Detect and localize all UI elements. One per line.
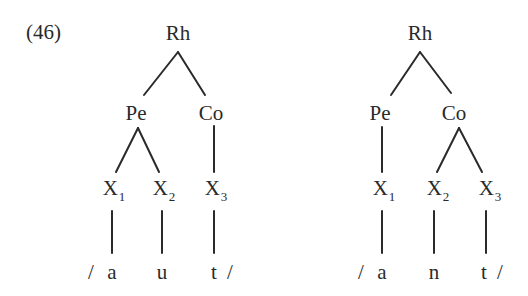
node-peak: Pe <box>370 103 391 124</box>
tree-edge <box>116 128 138 172</box>
tree-edge <box>459 128 482 172</box>
tree-edges <box>0 0 528 296</box>
skeletal-slot-x3: X3 <box>479 178 502 199</box>
subscript: 2 <box>169 189 176 204</box>
subscript: 2 <box>443 189 450 204</box>
segment-n: n <box>429 262 440 283</box>
tree-edge <box>138 128 159 172</box>
segment-a: a <box>107 262 116 283</box>
node-coda: Co <box>442 103 467 124</box>
skeletal-slot-x2: X2 <box>427 178 450 199</box>
skeletal-slot-x3: X3 <box>205 178 228 199</box>
tree-edge <box>144 52 178 95</box>
segment-a: a <box>377 262 386 283</box>
slash-delimiter: / <box>88 262 94 283</box>
subscript: 3 <box>221 189 228 204</box>
syllable-tree-diagram: (46) RhPeCoX1X2X3/aut/RhPeCoX1X2X3/ant/ <box>0 0 528 296</box>
tree-edge <box>420 52 451 93</box>
subscript: 3 <box>495 189 502 204</box>
slash-delimiter: / <box>358 262 364 283</box>
node-coda: Co <box>199 103 224 124</box>
skeletal-slot-x1: X1 <box>103 178 126 199</box>
node-rhyme: Rh <box>166 23 191 44</box>
subscript: 1 <box>389 189 396 204</box>
tree-edge <box>437 128 459 172</box>
tree-edge <box>178 52 205 95</box>
segment-u: u <box>157 262 168 283</box>
segment-t: t <box>481 262 487 283</box>
skeletal-slot-x2: X2 <box>153 178 176 199</box>
segment-t: t <box>211 262 217 283</box>
skeletal-slot-x1: X1 <box>373 178 396 199</box>
node-rhyme: Rh <box>408 23 433 44</box>
tree-edge <box>391 52 420 95</box>
slash-delimiter: / <box>497 262 503 283</box>
node-peak: Pe <box>126 103 147 124</box>
subscript: 1 <box>119 189 126 204</box>
slash-delimiter: / <box>227 262 233 283</box>
